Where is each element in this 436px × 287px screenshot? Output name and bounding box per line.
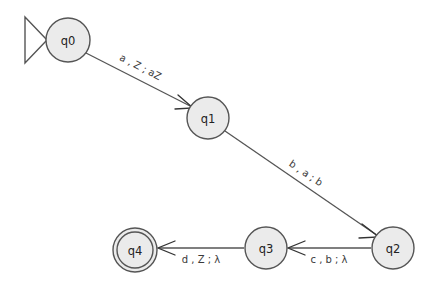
state-node-q0[interactable]: q0: [46, 18, 90, 62]
state-label-q3: q3: [259, 242, 274, 256]
state-node-q4[interactable]: q4: [113, 228, 157, 272]
state-label-q1: q1: [201, 112, 216, 126]
transition-label-q3-q4: d , Z ; λ: [182, 254, 220, 265]
state-label-q0: q0: [61, 34, 76, 48]
transition-label-q0-q1: a , Z ; aZ: [118, 52, 163, 82]
automaton-canvas: a , Z ; aZ b , a ; b c , b ; λ d , Z ; λ…: [0, 0, 436, 287]
state-label-q2: q2: [386, 242, 401, 256]
transition-q1-q2[interactable]: b , a ; b: [225, 131, 379, 238]
transition-q0-q1[interactable]: a , Z ; aZ: [86, 52, 193, 109]
transition-q2-q3[interactable]: c , b ; λ: [288, 241, 371, 265]
start-arrow-icon: [25, 17, 47, 63]
state-diagram: a , Z ; aZ b , a ; b c , b ; λ d , Z ; λ…: [0, 0, 436, 287]
state-label-q4: q4: [128, 244, 143, 258]
state-node-q1[interactable]: q1: [187, 97, 229, 139]
transition-label-q2-q3: c , b ; λ: [310, 254, 347, 265]
transition-label-q1-q2: b , a ; b: [287, 158, 325, 188]
state-node-q3[interactable]: q3: [245, 227, 287, 269]
state-node-q2[interactable]: q2: [372, 227, 414, 269]
transition-q3-q4[interactable]: d , Z ; λ: [158, 241, 244, 265]
